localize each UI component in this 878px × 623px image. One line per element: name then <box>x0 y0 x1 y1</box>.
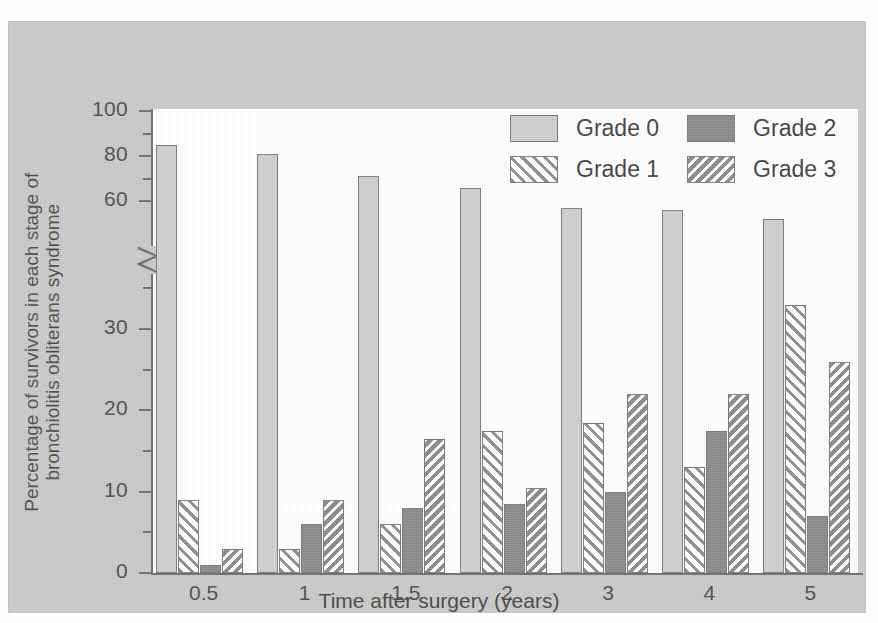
y-axis-minor-tick-5 <box>143 531 152 533</box>
y-axis-minor-tick-35 <box>143 287 152 289</box>
bar-grade-1-3 <box>583 423 604 573</box>
bar-grade-3-2 <box>526 488 547 573</box>
legend-swatch-grade-2 <box>687 115 735 142</box>
bar-grade-3-5 <box>829 362 850 573</box>
bar-grade-0-2 <box>460 188 481 574</box>
y-axis-tick-80 <box>139 155 152 157</box>
bar-grade-1-1 <box>279 549 300 573</box>
y-axis-tick-10 <box>139 491 152 493</box>
bar-grade-2-1.5 <box>402 508 423 573</box>
bar-grade-3-0.5 <box>222 549 243 573</box>
x-axis-line <box>151 573 863 575</box>
bar-grade-0-1 <box>257 154 278 573</box>
y-axis-tick-0 <box>139 572 152 574</box>
y-axis-tick-60 <box>139 200 152 202</box>
y-axis-minor-tick-90 <box>143 133 152 135</box>
y-axis-minor-tick-25 <box>143 369 152 371</box>
bar-grade-3-1 <box>323 500 344 573</box>
bar-grade-2-1 <box>301 524 322 573</box>
bar-grade-3-3 <box>627 394 648 573</box>
legend-swatch-grade-3 <box>687 156 735 183</box>
bar-grade-2-4 <box>706 431 727 573</box>
y-axis-minor-tick-70 <box>143 178 152 180</box>
figure-panel: 01020306080100 0.511.52345 Grade 0Grade … <box>8 21 866 613</box>
y-axis-title-line-1: Percentage of survivors in each stage of <box>21 122 42 562</box>
legend-label-grade-3: Grade 3 <box>753 156 846 183</box>
legend-swatch-grade-0 <box>510 115 558 142</box>
bar-grade-1-5 <box>785 305 806 573</box>
y-axis-tick-30 <box>139 328 152 330</box>
bar-grade-0-0.5 <box>156 145 177 573</box>
bar-grade-0-5 <box>763 219 784 573</box>
y-axis-title-line-2: bronchiolitis obliterans syndrome <box>42 122 63 562</box>
y-axis-tick-20 <box>139 409 152 411</box>
bar-grade-2-2 <box>504 504 525 573</box>
bar-grade-1-2 <box>482 431 503 573</box>
bar-grade-0-3 <box>561 208 582 573</box>
x-axis-title: Time after surgery (years) <box>0 589 878 613</box>
bar-grade-2-3 <box>605 492 626 573</box>
bar-grade-0-4 <box>662 210 683 573</box>
bar-grade-1-0.5 <box>178 500 199 573</box>
bar-grade-1-4 <box>684 467 705 573</box>
bar-grade-2-0.5 <box>200 565 221 573</box>
chart-legend: Grade 0Grade 2Grade 1Grade 3 <box>510 115 846 183</box>
legend-label-grade-1: Grade 1 <box>576 156 669 183</box>
y-axis-tick-100 <box>139 110 152 112</box>
legend-label-grade-2: Grade 2 <box>753 115 846 142</box>
y-axis-title: Percentage of survivors in each stage of… <box>21 122 64 562</box>
figure-page: 01020306080100 0.511.52345 Grade 0Grade … <box>0 0 878 623</box>
y-axis-tick-label-0: 0 <box>8 559 128 583</box>
bar-grade-3-4 <box>728 394 749 573</box>
y-axis-tick-label-100: 100 <box>8 97 128 121</box>
y-axis-minor-tick-15 <box>143 450 152 452</box>
legend-swatch-grade-1 <box>510 156 558 183</box>
bar-grade-2-5 <box>807 516 828 573</box>
bar-grade-0-1.5 <box>358 176 379 573</box>
bar-grade-1-1.5 <box>380 524 401 573</box>
bar-grade-3-1.5 <box>424 439 445 573</box>
legend-label-grade-0: Grade 0 <box>576 115 669 142</box>
